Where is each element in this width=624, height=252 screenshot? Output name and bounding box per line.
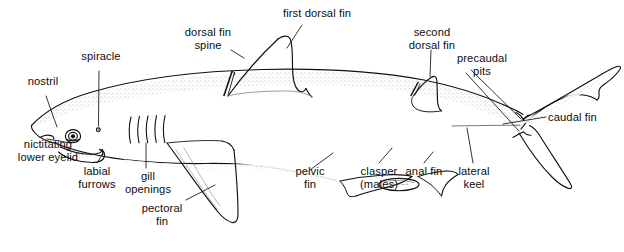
shark-anatomy-diagram: nostril spiracle nictitating lower eyeli…	[0, 0, 624, 252]
leader-lateral-keel	[467, 128, 473, 163]
leader-clasper	[379, 148, 392, 163]
label-gill-openings: gill openings	[112, 170, 184, 195]
spiracle-mark	[96, 128, 100, 132]
label-spiracle: spiracle	[70, 50, 132, 63]
lateral-keel-line	[452, 125, 520, 126]
leader-dorsal-fin-spine	[231, 50, 244, 58]
label-caudal-fin: caudal fin	[548, 111, 620, 124]
caudal-fin-shape	[519, 66, 621, 188]
leader-first-dorsal-fin	[287, 25, 302, 48]
label-nictitating-lower-eyelid: nictitating lower eyelid	[0, 138, 96, 163]
label-pelvic-fin: pelvic fin	[280, 165, 340, 190]
label-pectoral-fin: pectoral fin	[122, 202, 202, 227]
label-first-dorsal-fin: first dorsal fin	[272, 7, 362, 20]
label-dorsal-fin-spine: dorsal fin spine	[168, 26, 248, 51]
label-precaudal-pits: precaudal pits	[444, 52, 520, 77]
label-second-dorsal-fin: second dorsal fin	[392, 26, 472, 51]
leader-second-dorsal-fin	[430, 50, 431, 77]
gill-openings-mark	[129, 116, 165, 143]
label-clasper: clasper (males)	[344, 165, 414, 190]
leader-anal-fin	[424, 152, 433, 163]
label-nostril: nostril	[12, 75, 74, 88]
leader-spiracle	[99, 71, 100, 126]
shark-illustration	[0, 0, 624, 252]
